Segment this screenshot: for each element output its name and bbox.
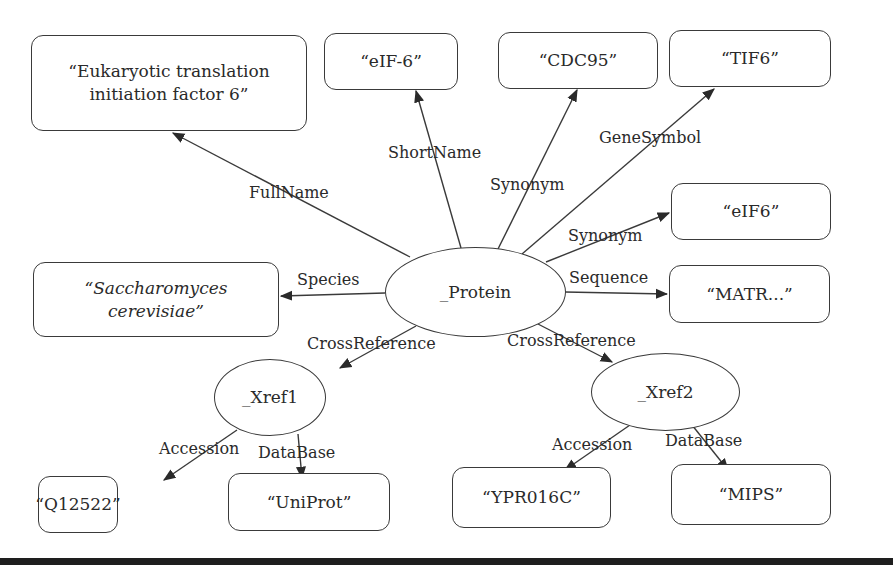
synonym2-text: “eIF6” <box>723 200 780 223</box>
node-fullname-value: “Eukaryotic translation initiation facto… <box>31 35 307 131</box>
node-synonym-cdc95: “CDC95” <box>498 32 658 89</box>
accession2-text: “YPR016C” <box>482 486 581 509</box>
node-database-mips: “MIPS” <box>671 464 831 525</box>
edge-synonym1 <box>497 90 577 251</box>
fullname-line1: “Eukaryotic translation <box>68 60 269 83</box>
horizontal-rule <box>0 558 893 565</box>
node-species-value: “Saccharomyces cerevisiae” <box>33 262 279 337</box>
edge-label-shortname: ShortName <box>388 143 481 162</box>
node-genesymbol-value: “TIF6” <box>669 30 831 87</box>
protein-text: _Protein <box>440 281 512 304</box>
species-line1: “Saccharomyces <box>85 277 228 300</box>
node-database-uniprot: “UniProt” <box>228 473 390 531</box>
xref2-text: _Xref2 <box>638 381 694 404</box>
node-xref1: _Xref1 <box>214 359 326 436</box>
node-protein: _Protein <box>385 247 566 337</box>
sequence-text: “MATR...” <box>706 283 793 306</box>
edge-label-genesymbol: GeneSymbol <box>599 128 701 147</box>
edge-label-synonym2: Synonym <box>568 226 642 245</box>
edge-label-accession2: Accession <box>552 435 632 454</box>
edge-label-synonym1: Synonym <box>490 175 564 194</box>
edge-shortname <box>416 91 461 248</box>
node-accession-q12522: “Q12522” <box>38 476 118 533</box>
edge-label-crossref1: CrossReference <box>307 334 436 353</box>
shortname-text: “eIF-6” <box>360 50 422 73</box>
edge-label-sequence: Sequence <box>569 268 648 287</box>
species-line2: cerevisiae” <box>85 300 228 323</box>
edge-label-species: Species <box>297 270 359 289</box>
edge-label-database2: DataBase <box>665 431 742 450</box>
node-sequence-value: “MATR...” <box>669 265 830 323</box>
edge-species <box>281 293 385 296</box>
node-shortname-value: “eIF-6” <box>324 33 458 90</box>
synonym1-text: “CDC95” <box>539 49 618 72</box>
edge-label-fullname: FullName <box>249 183 329 202</box>
edge-label-database1: DataBase <box>258 443 335 462</box>
database1-text: “UniProt” <box>267 491 352 514</box>
fullname-line2: initiation factor 6” <box>68 83 269 106</box>
edge-label-crossref2: CrossReference <box>507 331 636 350</box>
accession1-text: “Q12522” <box>35 493 120 516</box>
node-accession-ypr016c: “YPR016C” <box>452 467 611 528</box>
xref1-text: _Xref1 <box>242 386 298 409</box>
genesymbol-text: “TIF6” <box>721 47 779 70</box>
node-synonym-eif6: “eIF6” <box>671 183 831 240</box>
edge-label-accession1: Accession <box>159 439 239 458</box>
database2-text: “MIPS” <box>719 483 784 506</box>
edge-sequence <box>565 292 667 294</box>
node-xref2: _Xref2 <box>591 353 740 431</box>
